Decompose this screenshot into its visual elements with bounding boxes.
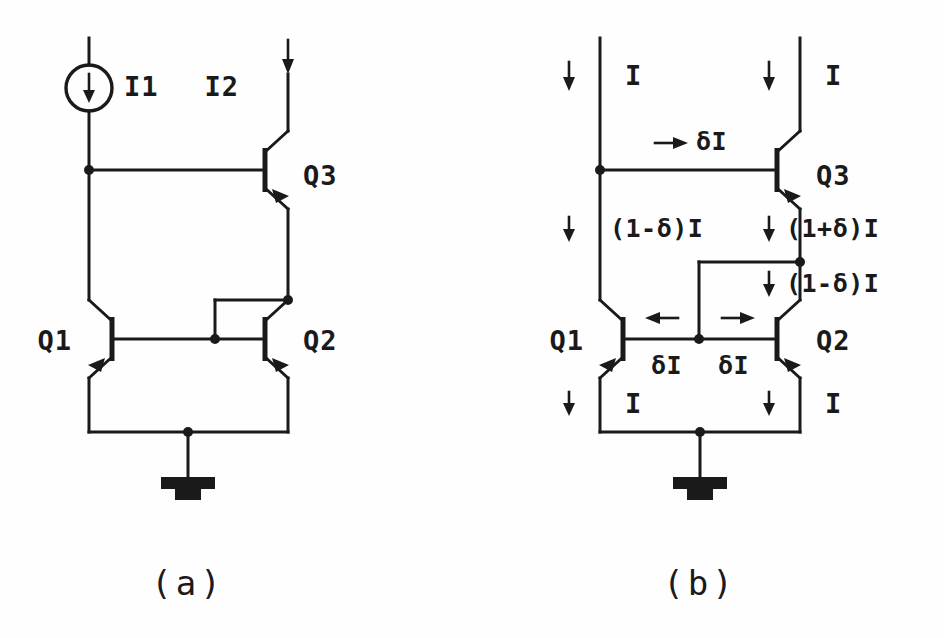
- label-q2: Q2: [303, 325, 338, 356]
- q2-diode-connect-link: [215, 300, 288, 339]
- b-transistor-q1: [599, 317, 699, 432]
- input-branch-i2: [265, 40, 294, 152]
- b-label-i-emitter-right: I: [825, 388, 842, 419]
- circuit-diagram-canvas: I1 I2 Q3: [0, 0, 944, 638]
- b-arrow-left-top-icon: [563, 62, 575, 91]
- b-node-dot-base-line: [694, 334, 704, 344]
- transistor-q3: [89, 148, 289, 294]
- panel-b: I I δI Q3 (1-δ)I: [549, 38, 879, 603]
- caption-b: (b): [663, 563, 736, 603]
- b-arrow-right-top-icon: [763, 62, 775, 91]
- b-arrow-right-lower-icon: [763, 272, 775, 297]
- b-transistor-q3: [600, 148, 801, 262]
- node-dot-q2-collector: [283, 295, 293, 305]
- b-arrow-right-mid-icon: [763, 217, 775, 242]
- b-q2-diode-connect-link: [699, 262, 800, 339]
- b-label-delta-i-left: δI: [651, 351, 682, 380]
- q1-collector-lead: [89, 300, 112, 321]
- b-label-left-mid: (1-δ)I: [610, 214, 703, 243]
- ground-symbol-b: [673, 477, 727, 500]
- b-label-right-lower: (1-δ)I: [786, 269, 879, 298]
- bottom-rail-a: [89, 432, 288, 477]
- label-i2: I2: [204, 71, 239, 102]
- b-q3-collector-lead: [777, 131, 800, 152]
- b-arrow-emitter-right-icon: [763, 392, 775, 416]
- b-label-i-right-top: I: [825, 60, 842, 91]
- figure-root: I1 I2 Q3: [0, 0, 944, 638]
- b-label-delta-i-right: δI: [718, 351, 749, 380]
- transistor-q2: [215, 300, 289, 432]
- b-arrow-base-q3-icon: [655, 137, 688, 149]
- i2-arrow-icon: [282, 40, 294, 74]
- b-label-q3: Q3: [816, 160, 851, 191]
- current-source-i1: [66, 38, 112, 170]
- b-label-i-left-top: I: [625, 60, 642, 91]
- b-q2-collector-lead: [777, 300, 800, 321]
- label-q3: Q3: [303, 160, 338, 191]
- b-q1-collector-lead: [600, 300, 623, 321]
- node-dot-base-line: [210, 334, 220, 344]
- panel-a: I1 I2 Q3: [37, 38, 337, 603]
- b-label-right-mid: (1+δ)I: [786, 214, 879, 243]
- b-bottom-rail: [600, 432, 800, 477]
- b-arrow-left-mid-icon: [563, 217, 575, 242]
- label-i1: I1: [124, 71, 159, 102]
- label-q1: Q1: [37, 325, 72, 356]
- b-arrow-base-q1-icon: [645, 312, 678, 324]
- b-arrow-emitter-left-icon: [563, 392, 575, 416]
- ground-symbol-a: [161, 477, 215, 500]
- current-source-arrow-icon: [83, 74, 95, 103]
- transistor-q1: [88, 317, 215, 432]
- b-node-dot-ground: [695, 427, 705, 437]
- node-dot-ground-a: [183, 427, 193, 437]
- caption-a: (a): [151, 563, 224, 603]
- b-label-q1: Q1: [549, 325, 584, 356]
- b-label-q2: Q2: [816, 325, 851, 356]
- b-arrow-base-q2-icon: [722, 312, 755, 324]
- b-label-delta-i-base-q3: δI: [696, 127, 727, 156]
- b-label-i-emitter-left: I: [625, 388, 642, 419]
